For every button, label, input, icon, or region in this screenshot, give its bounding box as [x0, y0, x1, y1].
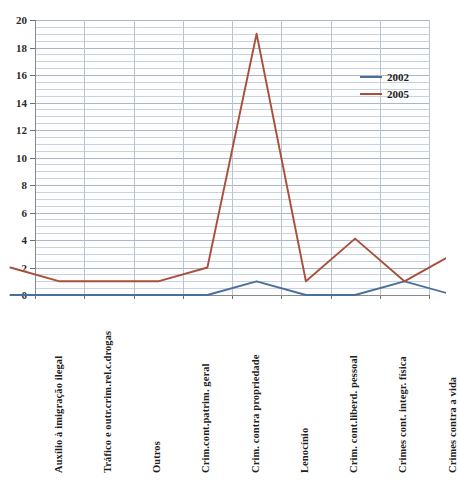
legend: 2002 2005 — [360, 68, 422, 102]
gridline-vertical — [429, 20, 430, 296]
gridline-vertical — [281, 20, 282, 296]
x-axis-category-label: Lenocínio — [299, 428, 310, 473]
x-axis-labels: Auxílio à imigração ilegalTráfico e outr… — [0, 300, 446, 481]
x-axis-category-label: Auxílio à imigração ilegal — [53, 356, 64, 473]
y-tick-label: 8 — [0, 180, 27, 190]
legend-item[interactable]: 2005 — [360, 85, 422, 102]
x-axis-category-label: Crim. cont.liberd. pessoal — [348, 355, 359, 473]
x-axis-category-label: Crim.cont.patrim. geral — [200, 363, 211, 473]
gridline-vertical — [232, 20, 233, 296]
legend-swatch-2002 — [360, 76, 382, 78]
gridline-vertical — [84, 20, 85, 296]
y-tick-label: 12 — [0, 125, 27, 135]
x-tick-mark — [429, 295, 430, 299]
x-axis-category-label: Crimes contra a vida — [447, 377, 458, 473]
gridline-vertical — [183, 20, 184, 296]
y-tick-label: 18 — [0, 43, 27, 53]
x-axis-category-label: Tráfico e outr.crim.rel.c.drogas — [102, 331, 113, 473]
gridline-vertical — [134, 20, 135, 296]
x-axis-category-label: Crim. contra propriedade — [250, 354, 261, 473]
gridline-vertical — [380, 20, 381, 296]
y-tick-label: 2 — [0, 263, 27, 273]
y-tick-label: 20 — [0, 15, 27, 25]
legend-swatch-2005 — [360, 93, 382, 95]
y-tick-label: 4 — [0, 235, 27, 245]
x-axis-category-label: Outros — [151, 441, 162, 473]
legend-label-2002: 2002 — [387, 71, 409, 83]
x-axis-category-label: Crimes cont. integr. física — [397, 356, 408, 473]
y-tick-label: 0 — [0, 290, 27, 300]
gridline-vertical — [331, 20, 332, 296]
y-axis-line — [35, 20, 36, 296]
y-tick-label: 10 — [0, 153, 27, 163]
x-axis-line — [35, 295, 429, 296]
legend-item[interactable]: 2002 — [360, 68, 422, 85]
legend-label-2005: 2005 — [387, 88, 409, 100]
y-tick-label: 6 — [0, 208, 27, 218]
y-tick-label: 16 — [0, 70, 27, 80]
y-tick-label: 14 — [0, 98, 27, 108]
